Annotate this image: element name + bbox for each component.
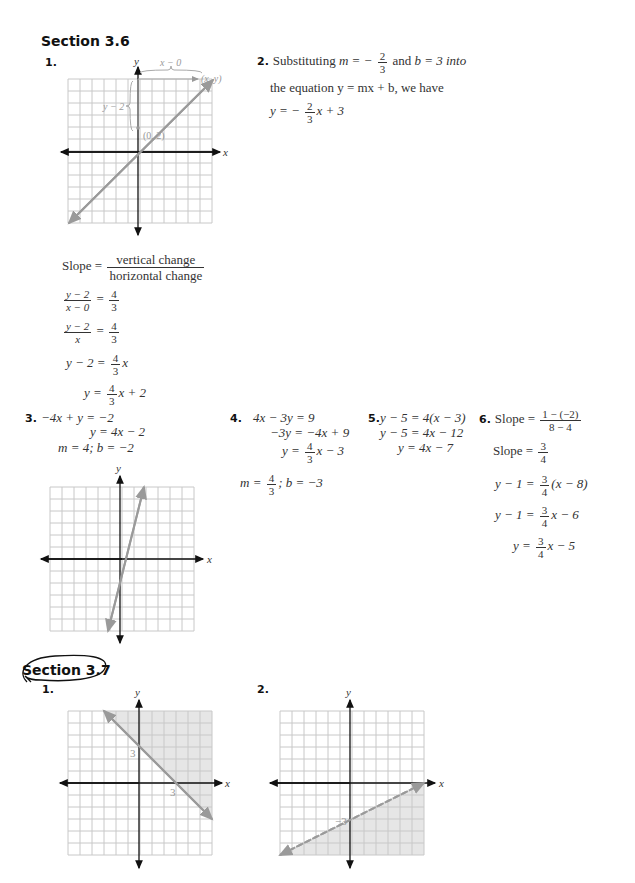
- y-axis-label: y: [345, 688, 351, 698]
- graph-problem-3: x y: [35, 460, 215, 650]
- step-3: y − 2 = 43x: [66, 352, 128, 377]
- section-title-3-7: Section 3.7: [22, 662, 111, 678]
- p6-line-1: 6. Slope = 1 − (−2)8 − 4: [479, 408, 583, 433]
- problem-number: 5.: [368, 412, 380, 425]
- y-axis-label: y: [134, 688, 140, 698]
- x-axis-label: x: [222, 146, 228, 158]
- horizontal-change-label: x − 0: [159, 57, 181, 68]
- p4-line-4: m = 43; b = −3: [240, 472, 323, 497]
- p5-line-3: y = 4x − 7: [398, 440, 453, 456]
- problem-2: 2. Substituting m = − 23 and b = 3 into: [257, 50, 466, 75]
- y-intercept-label: 3: [130, 747, 136, 759]
- p4-line-3: y = 43x − 3: [282, 440, 344, 465]
- x-axis-label: x: [206, 553, 212, 565]
- problem-number: 3.: [25, 412, 37, 425]
- graph-inequality-2: x y −3: [265, 688, 445, 878]
- p6-line-5: y = 34x − 5: [513, 535, 575, 560]
- y-axis-label: y: [133, 55, 139, 67]
- p6-line-4: y − 1 = 34x − 6: [495, 504, 579, 529]
- step-4: y = 43x + 2: [84, 382, 146, 407]
- step-2: y − 2x = 43: [62, 320, 121, 345]
- x-intercept-label: 3: [170, 786, 176, 798]
- slope-definition: Slope = vertical changehorizontal change: [62, 252, 206, 283]
- graph-inequality-1: x y 3 3: [55, 688, 235, 878]
- p3-line-3: m = 4; b = −2: [58, 440, 134, 456]
- point-end-label: (x, y): [201, 73, 222, 85]
- p4-line-2: −3y = −4x + 9: [270, 425, 349, 441]
- step-1: y − 2x − 0 = 43: [62, 288, 121, 313]
- x-axis-label: x: [438, 777, 444, 789]
- problem-number: 4.: [230, 412, 242, 425]
- p4-line-1: 4x − 3y = 9: [253, 410, 315, 426]
- point-start-label: (0, 2): [143, 130, 165, 142]
- problem-number: 1.: [42, 683, 54, 696]
- p5-line-1: y − 5 = 4(x − 3): [380, 410, 466, 426]
- p6-line-2: Slope = 34: [493, 440, 550, 465]
- p6-line-3: y − 1 = 34(x − 8): [495, 473, 588, 498]
- p3-line-2: y = 4x − 2: [90, 424, 145, 440]
- y-intercept-label: −3: [335, 815, 347, 827]
- vertical-change-label: y − 2: [102, 101, 124, 112]
- section-title-3-6: Section 3.6: [41, 33, 130, 49]
- problem-2-line-2: the equation y = mx + b, we have: [270, 80, 444, 96]
- y-axis-label: y: [115, 462, 121, 474]
- x-axis-label: x: [224, 777, 230, 789]
- problem-2-result: y = − 23x + 3: [270, 100, 344, 125]
- p5-line-2: y − 5 = 4x − 12: [380, 425, 463, 441]
- graph-problem-1: x y x − 0 y − 2 (0, 2) (x, y): [55, 55, 235, 245]
